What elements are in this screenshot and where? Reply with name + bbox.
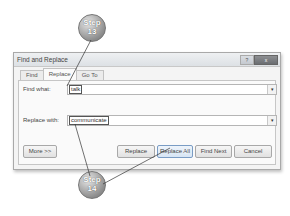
- replace-with-input[interactable]: communicate ▾: [67, 115, 277, 126]
- tab-go-to[interactable]: Go To: [76, 70, 104, 80]
- window-controls: ? x: [240, 55, 278, 63]
- find-next-button[interactable]: Find Next: [195, 145, 232, 158]
- mouse-pointer-icon: ☜: [181, 147, 188, 156]
- find-what-label: Find what:: [23, 86, 51, 92]
- replace-with-label: Replace with:: [23, 117, 59, 123]
- title-bar: Find and Replace ? x: [14, 53, 280, 67]
- help-button[interactable]: ?: [240, 55, 254, 65]
- find-what-input[interactable]: talk ▾: [67, 84, 277, 95]
- find-replace-dialog: Find and Replace ? x Find Replace Go To …: [13, 52, 281, 170]
- close-button[interactable]: x: [254, 55, 278, 65]
- tab-replace[interactable]: Replace: [43, 68, 77, 80]
- cancel-button[interactable]: Cancel: [234, 145, 272, 158]
- find-what-value: talk: [69, 85, 82, 94]
- dialog-title: Find and Replace: [17, 56, 68, 63]
- step-13-callout: Step 13: [78, 14, 106, 42]
- chevron-down-icon[interactable]: ▾: [267, 85, 276, 94]
- step-14-callout: Step 14: [78, 171, 106, 199]
- more-button[interactable]: More >>: [23, 145, 57, 158]
- replace-with-value: communicate: [69, 116, 109, 125]
- tab-strip: Find Replace Go To: [20, 70, 103, 80]
- tab-find[interactable]: Find: [20, 70, 44, 80]
- chevron-down-icon[interactable]: ▾: [267, 116, 276, 125]
- replace-button[interactable]: Replace: [117, 145, 155, 158]
